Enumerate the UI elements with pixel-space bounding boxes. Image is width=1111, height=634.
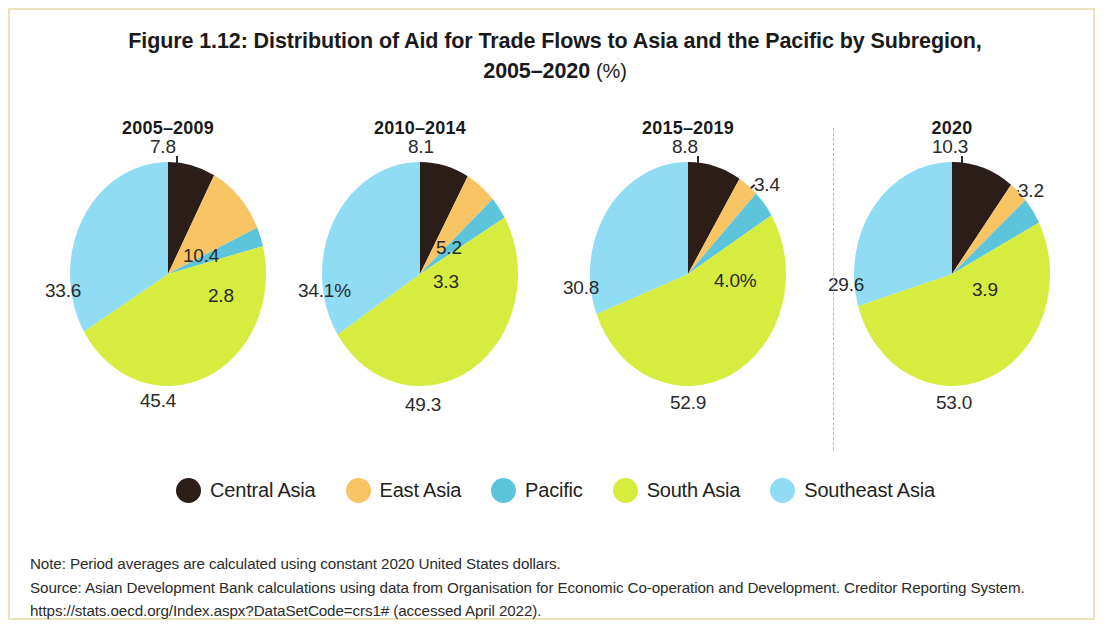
legend-swatch-icon — [346, 478, 371, 503]
pie-slice-value-label: 5.2 — [436, 237, 462, 259]
source-line: Source: Asian Development Bank calculati… — [30, 576, 1090, 623]
pie-slice-value-label: 8.8 — [672, 136, 698, 158]
pie-slice-value-label: 53.0 — [936, 392, 972, 414]
legend-swatch-icon — [613, 478, 638, 503]
chart-legend: Central AsiaEast AsiaPacificSouth AsiaSo… — [0, 478, 1111, 503]
legend-label: Southeast Asia — [804, 479, 935, 502]
legend-item: Central Asia — [176, 478, 315, 503]
pie-slice-value-label: 3.3 — [433, 271, 459, 293]
legend-label: Central Asia — [210, 479, 315, 502]
figure-title-line2: 2005–2020 — [483, 59, 590, 83]
pie-slice-value-label: 3.4 — [754, 174, 780, 196]
pie-slice-value-label: 10.3 — [932, 136, 968, 158]
pie-slice-value-label: 33.6 — [45, 280, 81, 302]
pie-chart-group: 2005–20097.810.42.845.433.62010–20148.15… — [0, 118, 1111, 458]
pie-slice-value-label: 3.9 — [972, 279, 998, 301]
pie-slice-value-label: 10.4 — [183, 245, 219, 267]
pie-chart: 2010–20148.15.23.349.334.1% — [300, 118, 540, 458]
pie-chart: 202010.33.23.953.029.6 — [832, 118, 1072, 458]
legend-swatch-icon — [491, 478, 516, 503]
figure-title: Figure 1.12: Distribution of Aid for Tra… — [60, 26, 1050, 86]
pie-slice-value-label: 45.4 — [140, 390, 176, 412]
legend-item: Pacific — [491, 478, 583, 503]
pie-slice-value-label: 30.8 — [563, 277, 599, 299]
legend-item: South Asia — [613, 478, 741, 503]
legend-label: East Asia — [380, 479, 462, 502]
pie-slice-value-label: 2.8 — [208, 285, 234, 307]
pie-slice-value-label: 52.9 — [670, 392, 706, 414]
figure-title-unit: (%) — [596, 60, 627, 82]
legend-label: South Asia — [647, 479, 741, 502]
pie-slice-value-label: 8.1 — [408, 136, 434, 158]
legend-swatch-icon — [770, 478, 795, 503]
pie-chart: 2015–20198.83.44.0%52.930.8 — [568, 118, 808, 458]
figure-title-line1: Figure 1.12: Distribution of Aid for Tra… — [128, 29, 982, 53]
legend-swatch-icon — [176, 478, 201, 503]
legend-item: East Asia — [346, 478, 462, 503]
pie-slice-value-label: 49.3 — [405, 394, 441, 416]
pie-slice-value-label: 34.1% — [298, 280, 351, 302]
legend-item: Southeast Asia — [770, 478, 935, 503]
note-line: Note: Period averages are calculated usi… — [30, 552, 1090, 576]
pie-slice-value-label: 7.8 — [150, 136, 176, 158]
legend-label: Pacific — [525, 479, 583, 502]
pie-chart: 2005–20097.810.42.845.433.6 — [48, 118, 288, 458]
pie-slice-value-label: 3.2 — [1018, 180, 1044, 202]
figure-notes: Note: Period averages are calculated usi… — [30, 552, 1090, 623]
section-divider — [833, 128, 834, 450]
pie-slice-value-label: 4.0% — [714, 270, 757, 292]
